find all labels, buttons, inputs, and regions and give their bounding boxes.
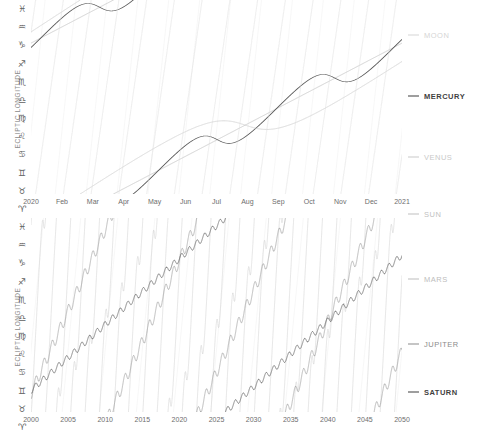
legend-swatch-sun bbox=[408, 213, 419, 214]
x-tick-2035: 2035 bbox=[283, 416, 299, 423]
x-axis-ticks-bottom: 2000200520102015202020252030203520402045… bbox=[31, 416, 402, 432]
zodiac-tick-5: ♎ bbox=[14, 95, 30, 104]
legend-label-sun: SUN bbox=[424, 209, 441, 218]
zodiac-tick-0: ♓ bbox=[14, 223, 30, 232]
legend-swatch-saturn bbox=[408, 392, 419, 393]
legend-label-venus: VENUS bbox=[424, 152, 452, 161]
x-tick-Jun: Jun bbox=[180, 198, 191, 205]
x-tick-2020: 2020 bbox=[23, 198, 39, 205]
x-tick-Nov: Nov bbox=[334, 198, 346, 205]
inner-bodies-panel: ECLIPTIC LONGITUDE ♓♒♑♐♏♎♍♌♋♊♉♈ 2020FebM… bbox=[0, 0, 491, 218]
x-tick-Oct: Oct bbox=[304, 198, 315, 205]
legend-label-jupiter: JUPITER bbox=[424, 340, 459, 349]
plot-area-top bbox=[31, 0, 402, 194]
legend-bottom: MARSJUPITERSATURN bbox=[403, 218, 489, 436]
x-tick-Mar: Mar bbox=[87, 198, 99, 205]
zodiac-tick-0: ♓ bbox=[14, 5, 30, 14]
zodiac-tick-4: ♏ bbox=[14, 295, 30, 304]
legend-swatch-mercury bbox=[408, 95, 419, 96]
legend-swatch-moon bbox=[408, 34, 419, 35]
legend-entry-mercury[interactable]: MERCURY bbox=[408, 91, 465, 100]
zodiac-tick-10: ♉ bbox=[14, 404, 30, 413]
ephemeris-chart-page: ECLIPTIC LONGITUDE ♓♒♑♐♏♎♍♌♋♊♉♈ 2020FebM… bbox=[0, 0, 491, 436]
legend-entry-venus[interactable]: VENUS bbox=[408, 152, 452, 161]
x-tick-2040: 2040 bbox=[320, 416, 336, 423]
zodiac-tick-9: ♊ bbox=[14, 168, 30, 177]
zodiac-tick-11: ♈ bbox=[14, 422, 30, 431]
outer-bodies-panel: ECLIPTIC LONGITUDE ♓♒♑♐♏♎♍♌♋♊♉♈ 20002005… bbox=[0, 218, 491, 436]
zodiac-tick-8: ♋ bbox=[14, 150, 30, 159]
x-tick-2015: 2015 bbox=[135, 416, 151, 423]
x-tick-Aug: Aug bbox=[241, 198, 253, 205]
legend-swatch-mars bbox=[408, 279, 419, 280]
legend-swatch-jupiter bbox=[408, 344, 419, 345]
legend-label-mercury: MERCURY bbox=[424, 91, 465, 100]
x-tick-Dec: Dec bbox=[365, 198, 377, 205]
y-axis-zodiac-ticks-bottom: ♓♒♑♐♏♎♍♌♋♊♉♈ bbox=[14, 218, 30, 436]
zodiac-tick-7: ♌ bbox=[14, 132, 30, 141]
legend-entry-moon[interactable]: MOON bbox=[408, 30, 449, 39]
zodiac-tick-7: ♌ bbox=[14, 350, 30, 359]
zodiac-tick-2: ♑ bbox=[14, 41, 30, 50]
legend-swatch-venus bbox=[408, 156, 419, 157]
legend-entry-saturn[interactable]: SATURN bbox=[408, 388, 458, 397]
legend-entry-sun[interactable]: SUN bbox=[408, 209, 441, 218]
plot-area-bottom bbox=[31, 218, 402, 412]
legend-entry-jupiter[interactable]: JUPITER bbox=[408, 340, 459, 349]
x-tick-2025: 2025 bbox=[209, 416, 225, 423]
zodiac-tick-2: ♑ bbox=[14, 259, 30, 268]
legend-label-saturn: SATURN bbox=[424, 388, 458, 397]
x-tick-Apr: Apr bbox=[118, 198, 129, 205]
x-tick-May: May bbox=[148, 198, 161, 205]
zodiac-tick-3: ♐ bbox=[14, 59, 30, 68]
zodiac-tick-3: ♐ bbox=[14, 277, 30, 286]
y-axis-zodiac-ticks-top: ♓♒♑♐♏♎♍♌♋♊♉♈ bbox=[14, 0, 30, 218]
legend-label-mars: MARS bbox=[424, 275, 448, 284]
zodiac-tick-10: ♉ bbox=[14, 186, 30, 195]
x-tick-2000: 2000 bbox=[23, 416, 39, 423]
x-tick-Sep: Sep bbox=[272, 198, 284, 205]
zodiac-tick-1: ♒ bbox=[14, 23, 30, 32]
legend-label-moon: MOON bbox=[424, 30, 449, 39]
legend-entry-mars[interactable]: MARS bbox=[408, 275, 448, 284]
x-axis-ticks-top: 2020FebMarAprMayJunJulAugSepOctNovDec202… bbox=[31, 198, 402, 214]
zodiac-tick-6: ♍ bbox=[14, 114, 30, 123]
zodiac-tick-11: ♈ bbox=[14, 204, 30, 213]
zodiac-tick-1: ♒ bbox=[14, 241, 30, 250]
x-tick-2045: 2045 bbox=[357, 416, 373, 423]
zodiac-tick-5: ♎ bbox=[14, 313, 30, 322]
legend-top: MOONMERCURYVENUSSUN bbox=[403, 0, 489, 218]
x-tick-2005: 2005 bbox=[60, 416, 76, 423]
x-tick-2030: 2030 bbox=[246, 416, 262, 423]
zodiac-tick-6: ♍ bbox=[14, 332, 30, 341]
x-tick-2020: 2020 bbox=[172, 416, 188, 423]
x-tick-Feb: Feb bbox=[56, 198, 68, 205]
x-tick-2010: 2010 bbox=[97, 416, 113, 423]
zodiac-tick-9: ♊ bbox=[14, 386, 30, 395]
zodiac-tick-8: ♋ bbox=[14, 368, 30, 377]
zodiac-tick-4: ♏ bbox=[14, 77, 30, 86]
x-tick-Jul: Jul bbox=[212, 198, 221, 205]
